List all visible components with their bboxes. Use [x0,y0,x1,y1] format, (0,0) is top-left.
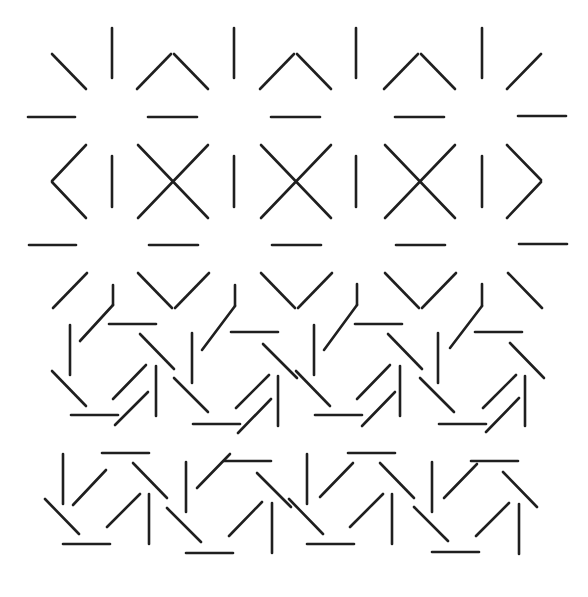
line-segment [362,392,395,426]
line-segment [324,305,357,350]
line-segment [483,375,516,408]
line-segment [476,503,509,536]
line-segment [507,54,541,89]
line-segment [510,343,544,378]
line-segment [388,334,422,369]
line-segment [107,494,140,527]
line-segment [236,375,269,408]
line-segment [350,494,383,527]
line-segment [138,273,172,308]
line-segment [297,54,331,89]
line-segment [261,273,295,308]
line-segment-figure [0,0,588,597]
line-segment [140,334,174,369]
line-segment [260,54,294,89]
line-segment [422,273,456,308]
line-segment [384,54,418,89]
line-segment [503,472,537,507]
line-segment [380,463,414,498]
line-segment [229,502,262,536]
line-segment [197,454,230,488]
line-segment [52,182,86,218]
line-segment [202,306,235,350]
line-segment [53,273,87,308]
line-segment [238,399,271,433]
line-segment [73,470,106,505]
line-segment [507,182,541,218]
line-segment [167,508,201,542]
line-segment [115,392,148,425]
line-segment [486,398,519,432]
line-segment [52,54,86,89]
line-segment [174,54,208,89]
line-segment [52,371,86,406]
line-segment [385,273,419,308]
line-segment [320,463,353,497]
line-segment [263,344,297,378]
line-segment [133,463,167,498]
line-segment [298,273,332,308]
line-segment [80,305,113,341]
line-segment [113,365,146,399]
segment-group [28,28,567,554]
line-segment [444,464,477,498]
line-segment [296,371,330,406]
line-segment [137,54,171,89]
line-segment [450,306,482,348]
line-segment [507,145,541,180]
line-segment [508,273,542,308]
line-segment [52,145,86,181]
line-segment [421,54,455,89]
line-segment [175,273,209,308]
line-segment [357,365,390,399]
